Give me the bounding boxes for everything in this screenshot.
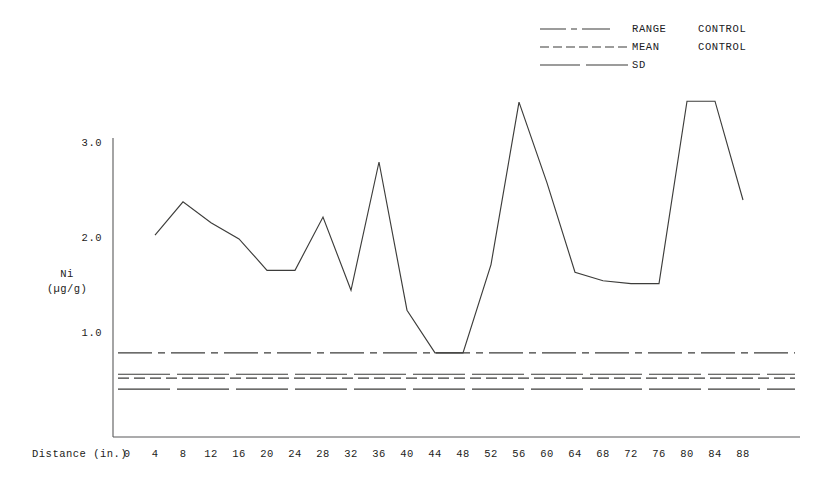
data-series-ni: [155, 101, 743, 353]
reference-lines-group: [118, 353, 795, 389]
x-tick-40: 40: [395, 448, 419, 460]
x-tick-88: 88: [731, 448, 755, 460]
x-tick-56: 56: [507, 448, 531, 460]
x-tick-72: 72: [619, 448, 643, 460]
x-tick-68: 68: [591, 448, 615, 460]
x-tick-48: 48: [451, 448, 475, 460]
x-tick-28: 28: [311, 448, 335, 460]
x-tick-64: 64: [563, 448, 587, 460]
x-tick-0: 0: [115, 448, 139, 460]
x-tick-44: 44: [423, 448, 447, 460]
x-tick-76: 76: [647, 448, 671, 460]
x-tick-16: 16: [227, 448, 251, 460]
x-tick-32: 32: [339, 448, 363, 460]
y-axis-title-line2: (µg/g): [32, 283, 102, 295]
x-tick-84: 84: [703, 448, 727, 460]
x-tick-52: 52: [479, 448, 503, 460]
chart-plot-area: [0, 0, 835, 495]
x-tick-24: 24: [283, 448, 307, 460]
x-tick-12: 12: [199, 448, 223, 460]
x-tick-80: 80: [675, 448, 699, 460]
y-tick-3: 3.0: [62, 137, 102, 149]
x-tick-20: 20: [255, 448, 279, 460]
x-tick-60: 60: [535, 448, 559, 460]
x-tick-4: 4: [143, 448, 167, 460]
y-tick-1: 1.0: [62, 327, 102, 339]
y-tick-2: 2.0: [62, 232, 102, 244]
y-axis-title-line1: Ni: [32, 268, 102, 280]
chart-page: RANGE CONTROL MEAN CONTROL SD: [0, 0, 835, 495]
x-tick-8: 8: [171, 448, 195, 460]
x-axis-title: Distance (in.): [32, 448, 127, 460]
x-tick-36: 36: [367, 448, 391, 460]
